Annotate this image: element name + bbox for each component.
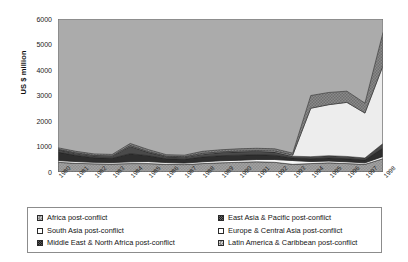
plot-svg [58,19,383,172]
legend-column-right: East Asia & Pacific post-conflictEurope … [218,212,357,250]
legend-item-label: South Asia post-conflict [47,227,124,235]
swatch-south-asia-icon [37,228,43,234]
y-tick-label: 0 [22,169,52,176]
legend-item[interactable]: Middle East & North Africa post-conflict [37,237,175,250]
x-axis-tick-labels: 1980198119821983198419851986198719881989… [58,174,383,204]
legend-item-label: Europe & Central Asia post-conflict [228,227,342,235]
swatch-latin-america-icon [218,240,224,246]
y-tick-label: 5000 [22,41,52,48]
stacked-area-chart: US $ million 6000500040003000200010000 1 [0,0,408,262]
y-tick-label: 2000 [22,118,52,125]
legend-item-label: Middle East & North Africa post-conflict [47,239,175,247]
chart-legend: Africa post-conflictSouth Asia post-conf… [27,207,382,253]
legend-column-left: Africa post-conflictSouth Asia post-conf… [37,212,175,250]
y-tick-label: 4000 [22,67,52,74]
y-tick-label: 3000 [22,92,52,99]
y-tick-label: 6000 [22,16,52,23]
plot-area [58,19,383,172]
swatch-east-asia-icon [218,215,224,221]
x-tick-label: 1998 [382,164,397,179]
legend-item[interactable]: South Asia post-conflict [37,225,175,238]
legend-item[interactable]: East Asia & Pacific post-conflict [218,212,357,225]
swatch-mena-icon [37,240,43,246]
legend-item-label: East Asia & Pacific post-conflict [228,214,331,222]
swatch-africa-icon [37,215,43,221]
legend-item[interactable]: Latin America & Caribbean post-conflict [218,237,357,250]
legend-item-label: Africa post-conflict [47,214,107,222]
swatch-europe-icon [218,228,224,234]
legend-item[interactable]: Europe & Central Asia post-conflict [218,225,357,238]
legend-item-label: Latin America & Caribbean post-conflict [228,239,357,247]
y-tick-label: 1000 [22,143,52,150]
legend-item[interactable]: Africa post-conflict [37,212,175,225]
